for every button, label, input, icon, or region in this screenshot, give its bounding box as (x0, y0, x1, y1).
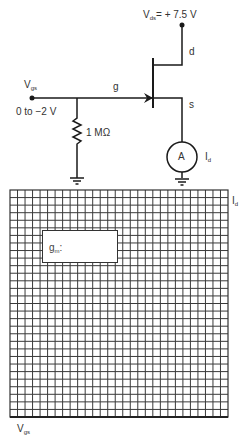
source-wire (153, 98, 182, 142)
y-axis-label: Id (232, 196, 238, 207)
circuit-diagram (0, 0, 246, 439)
vds-label: Vds= + 7.5 V (143, 10, 197, 21)
ground-icon (175, 179, 189, 185)
gm-label: gm: (49, 242, 62, 254)
drain-label: d (189, 47, 195, 57)
id-current-label: Id (205, 152, 211, 163)
x-axis-label: Vgs (17, 424, 30, 435)
gm-answer-box[interactable]: gm: (42, 230, 118, 263)
gate-label: g (113, 82, 119, 92)
resistor-icon (73, 98, 81, 178)
resistor-label: 1 MΩ (86, 128, 110, 138)
vgs-range-label: 0 to −2 V (16, 107, 56, 117)
source-label: s (189, 100, 194, 110)
graph-grid[interactable] (10, 190, 228, 417)
ammeter-symbol: A (178, 152, 185, 162)
vgs-input-label: Vgs (24, 80, 37, 91)
ground-icon (70, 178, 84, 184)
drain-wire (153, 25, 182, 65)
